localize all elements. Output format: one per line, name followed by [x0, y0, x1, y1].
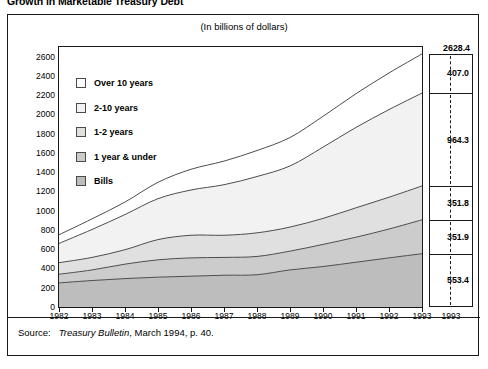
y-axis-tick-label: 600: [41, 244, 55, 254]
legend-item-label: 1 year & under: [94, 152, 157, 162]
source-note: Source: Treasury Bulletin, March 1994, p…: [18, 327, 214, 338]
legend-item: Bills: [76, 169, 206, 194]
legend-item-label: 2-10 years: [94, 103, 138, 113]
x-axis-tick-label: 1982: [50, 311, 69, 321]
callout-divider: [429, 93, 473, 94]
legend-item: 1-2 years: [76, 120, 206, 145]
source-publication: Treasury Bulletin: [59, 327, 130, 338]
callout-connector: [450, 222, 451, 252]
legend-item: 1 year & under: [76, 145, 206, 170]
figure-container: (In billions of dollars) 020040060080010…: [7, 14, 479, 356]
x-axis-tick-label: 1991: [347, 311, 366, 321]
x-axis-tick-label: 1987: [215, 311, 234, 321]
callout-divider: [429, 186, 473, 187]
legend-item: 2-10 years: [76, 96, 206, 121]
callout-divider: [429, 254, 473, 255]
callout-divider: [429, 220, 473, 221]
legend-item-label: Over 10 years: [94, 78, 153, 88]
y-axis-tick-label: 1800: [36, 129, 55, 139]
x-axis-tick-label: 1989: [281, 311, 300, 321]
y-axis-tick-label: 1400: [36, 167, 55, 177]
callout-connector: [450, 256, 451, 305]
source-rest: , March 1994, p. 40.: [129, 327, 214, 338]
legend-swatch-icon: [76, 152, 86, 162]
y-axis-tick-label: 2200: [36, 90, 55, 100]
y-axis-tick-label: 2600: [36, 52, 55, 62]
source-label: Source:: [18, 327, 51, 338]
legend-swatch-icon: [76, 176, 86, 186]
x-axis-labels: 1982198319841985198619871988198919901991…: [58, 311, 423, 325]
x-axis-tick-label: 1990: [314, 311, 333, 321]
callout-connector: [450, 95, 451, 184]
y-axis-tick-label: 1200: [36, 186, 55, 196]
x-axis-tick-label: 1986: [182, 311, 201, 321]
x-axis-tick-label: 1992: [380, 311, 399, 321]
legend-swatch-icon: [76, 127, 86, 137]
units-caption: (In billions of dollars): [8, 21, 480, 32]
callout-connector: [450, 188, 451, 218]
callout-connector: [450, 56, 451, 91]
y-axis-tick-label: 2000: [36, 109, 55, 119]
x-axis-tick-label: 1988: [248, 311, 267, 321]
y-axis-tick-label: 2400: [36, 71, 55, 81]
callout-total-value: 2628.4: [443, 43, 470, 53]
y-axis-tick-label: 200: [41, 283, 55, 293]
page-title: Growth in Marketable Treasury Debt: [7, 0, 183, 7]
y-axis-tick-label: 1000: [36, 206, 55, 216]
y-axis-labels: 0200400600800100012001400160018002000220…: [22, 46, 55, 308]
legend-swatch-icon: [76, 103, 86, 113]
x-axis-tick-label: 1985: [149, 311, 168, 321]
chart-legend: Over 10 years2-10 years1-2 years1 year &…: [76, 71, 206, 194]
x-axis-tick-label: 1983: [83, 311, 102, 321]
source-divider: [8, 317, 480, 318]
callout-box: [429, 54, 473, 307]
legend-swatch-icon: [76, 78, 86, 88]
legend-item-label: 1-2 years: [94, 127, 133, 137]
final-year-callout: 2628.4 1993 407.0964.3351.8351.9553.4: [429, 46, 473, 308]
legend-item-label: Bills: [94, 176, 113, 186]
y-axis-tick-label: 1600: [36, 148, 55, 158]
y-axis-tick-label: 400: [41, 263, 55, 273]
y-axis-tick-label: 800: [41, 225, 55, 235]
callout-year-label: 1993: [429, 311, 473, 321]
legend-item: Over 10 years: [76, 71, 206, 96]
x-axis-tick-label: 1984: [116, 311, 135, 321]
